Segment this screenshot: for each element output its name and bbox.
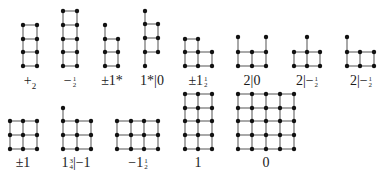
graph-node [129,133,133,137]
graph-node [75,133,79,137]
graph-node [196,50,200,54]
graph-node [345,50,349,54]
graph-node [372,50,376,54]
graph-node [196,119,200,123]
graph-1 [21,23,39,68]
graph-11 [115,119,160,151]
graph-node [264,106,268,110]
graph-node [35,50,39,54]
graph-node [75,64,79,68]
graph-node [278,147,282,151]
graph-label: 134|−1 [61,156,90,170]
graph-node [21,23,25,27]
graph-node [61,23,65,27]
graph-node [292,106,296,110]
graph-node [236,92,240,96]
graph-node [143,22,147,26]
graph-9 [8,119,39,151]
graph-node [292,147,296,151]
graph-8 [345,35,376,68]
graph-node [103,37,107,41]
graph-node [61,106,65,110]
graph-node [292,119,296,123]
graph-node [250,64,254,68]
graph-node [75,50,79,54]
graph-node [21,64,25,68]
graph-node [21,133,25,137]
graph-node [116,37,120,41]
graph-node [115,119,119,123]
graph-5 [183,37,214,68]
graph-node [345,64,349,68]
graph-node [264,147,268,151]
graph-node [75,9,79,13]
graph-node [156,133,160,137]
graph-label: 2|0 [244,74,261,88]
graph-node [250,133,254,137]
graph-node [75,147,79,151]
graph-label: ±1* [101,74,123,88]
graph-label: ±112 [188,74,207,88]
graph-node [264,50,268,54]
graph-node [183,92,187,96]
graph-label: 2|−12 [350,74,372,88]
graph-node [236,106,240,110]
graph-node [21,119,25,123]
graph-node [196,106,200,110]
graph-node [250,106,254,110]
graph-node [210,133,214,137]
graph-node [89,133,93,137]
graph-label: 1 [195,156,202,170]
graph-node [305,64,309,68]
graph-node [156,147,160,151]
graph-label: 1*|0 [140,74,164,88]
graph-node [236,64,240,68]
graph-node [196,92,200,96]
graph-node [61,119,65,123]
graph-node [264,35,268,39]
graph-node [61,9,65,13]
graph-node [278,106,282,110]
graph-node [129,119,133,123]
graph-node [278,92,282,96]
graph-node [210,119,214,123]
graph-node [21,50,25,54]
graph-node [250,119,254,123]
graph-node [183,37,187,41]
graph-node [103,50,107,54]
graph-node [142,119,146,123]
graph-node [250,50,254,54]
graph-node [183,50,187,54]
graph-label: +2 [24,74,36,93]
graph-node [278,133,282,137]
graph-node [264,92,268,96]
graph-node [264,119,268,123]
graph-3 [103,23,120,68]
graph-node [292,133,296,137]
graph-node [103,64,107,68]
graph-label: −112 [128,156,147,170]
graph-node [143,50,147,54]
graph-node [8,119,12,123]
graph-2 [61,9,79,68]
graph-node [89,119,93,123]
graph-node [156,50,160,54]
graph-node [61,50,65,54]
graph-node [345,35,349,39]
graph-13 [236,92,296,151]
graph-node [75,119,79,123]
graph-node [8,147,12,151]
graph-label: −12 [64,74,76,88]
graph-node [21,37,25,41]
graph-node [143,9,147,13]
graph-node [143,36,147,40]
graph-node [156,22,160,26]
graph-node [196,133,200,137]
graph-node [264,64,268,68]
graph-node [278,119,282,123]
graph-node [210,50,214,54]
graph-label: ±1 [16,156,31,170]
graph-node [35,133,39,137]
graph-node [8,133,12,137]
graph-node [196,64,200,68]
